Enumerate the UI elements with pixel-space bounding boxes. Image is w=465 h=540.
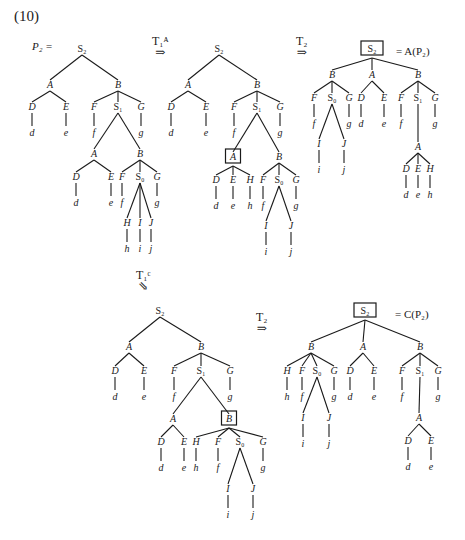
tree-node: E <box>380 92 387 103</box>
terminal-leaf: d <box>30 127 36 138</box>
terminal-leaf: f <box>262 200 266 211</box>
tree-node: J <box>251 483 256 494</box>
tree-edge <box>219 55 257 80</box>
tree-node: B <box>137 148 143 159</box>
tree-node: S₂ <box>367 43 376 54</box>
tree-edge <box>266 186 279 221</box>
tree-edge <box>160 317 201 342</box>
tree-node: D <box>156 436 165 447</box>
terminal-leaf: h <box>125 243 130 254</box>
tree-node: I <box>137 217 142 228</box>
tree-node: I <box>225 483 230 494</box>
tree-node: B <box>198 341 204 352</box>
terminal-leaf: f <box>401 391 405 402</box>
tree-edge <box>363 320 365 342</box>
tree-edge <box>311 320 365 342</box>
tree-node: E <box>62 101 69 112</box>
tree-edge <box>118 113 140 149</box>
terminal-leaf: i <box>265 246 268 257</box>
terminal-leaf: g <box>278 127 283 138</box>
tree-node: A <box>184 79 192 90</box>
terminal-leaf: i <box>318 164 321 175</box>
tree-node: H <box>282 365 291 376</box>
tree-node: J <box>289 220 294 231</box>
tree-edge <box>372 58 418 70</box>
tree-node: F <box>170 365 178 376</box>
tree-edge <box>50 55 82 80</box>
tree-edge <box>173 377 201 414</box>
tree-node: S₁ <box>413 92 422 103</box>
tree-node: S₂ <box>155 305 164 316</box>
tree-node: E <box>414 163 421 174</box>
tree-node: B <box>115 79 121 90</box>
terminal-leaf: j <box>326 438 331 449</box>
tree-edge <box>419 377 420 413</box>
tree-node: D <box>403 435 412 446</box>
tree-node: A <box>229 151 237 162</box>
terminal-leaf: g <box>228 391 233 402</box>
tree-node: G <box>259 436 266 447</box>
terminal-leaf: d <box>348 391 354 402</box>
terminal-leaf: d <box>404 189 410 200</box>
tree-node: A <box>125 341 133 352</box>
tree-p2: S₂ABDdEeFfS₁GgABDdEeFfS₀GgHhIiJj <box>27 43 160 254</box>
terminal-leaf: f <box>121 197 125 208</box>
tree-node: J <box>342 138 347 149</box>
tree-node: E <box>107 171 114 182</box>
tree-t1a: S₂ABDdEeFfS₁GgABDdEeHhFfS₀GgIiJj <box>166 43 299 257</box>
terminal-leaf: d <box>113 391 119 402</box>
terminal-leaf: d <box>74 197 80 208</box>
tree-node: B <box>254 79 260 90</box>
terminal-leaf: e <box>64 127 69 138</box>
terminal-leaf: j <box>288 246 293 257</box>
tree-node: D <box>211 174 220 185</box>
tree-node: B <box>329 69 335 80</box>
tree-edge <box>319 104 332 139</box>
terminal-leaf: i <box>139 243 142 254</box>
tree-node: F <box>230 101 238 112</box>
terminal-leaf: e <box>109 197 114 208</box>
terminal-leaf: d <box>406 461 412 472</box>
tree-t1c: S₂ABDdEeFfS₁GgABDdEeHhFfS₀GgIiJj <box>110 305 266 520</box>
tree-node: H <box>191 436 200 447</box>
tree-node: E <box>140 365 147 376</box>
tree-node: B <box>415 69 421 80</box>
tree-edge <box>303 377 317 413</box>
tree-c-p2: S₂BABHhFfS₀GgDdEeFfS₁GgIiJjADdEe <box>282 303 441 472</box>
tree-node: S₁ <box>113 101 122 112</box>
tree-edge <box>201 377 229 414</box>
tree-node: G <box>276 101 283 112</box>
terminal-leaf: j <box>250 509 255 520</box>
tree-node: B <box>226 413 232 424</box>
terminal-leaf: e <box>372 391 377 402</box>
tree-node: F <box>90 101 98 112</box>
tree-node: S₂ <box>214 43 223 54</box>
tree-edge <box>279 186 291 221</box>
terminal-leaf: e <box>182 462 187 473</box>
tree-node: S₂ <box>360 305 369 316</box>
tree-node: G <box>431 92 438 103</box>
tree-edge <box>233 113 257 152</box>
tree-edge <box>365 320 420 342</box>
tree-node: H <box>122 217 131 228</box>
tree-node: A <box>169 413 177 424</box>
tree-node: F <box>298 365 306 376</box>
tree-node: G <box>137 101 144 112</box>
terminal-leaf: d <box>214 200 220 211</box>
tree-node: G <box>153 171 160 182</box>
tree-edge <box>188 55 219 80</box>
tree-edge <box>94 113 118 149</box>
tree-node: E <box>370 365 377 376</box>
tree-edge <box>228 448 240 484</box>
terminal-leaf: e <box>142 391 147 402</box>
terminal-leaf: f <box>173 391 177 402</box>
tree-node: H <box>425 163 434 174</box>
tree-node: A <box>368 69 376 80</box>
tree-node: S₀ <box>235 436 245 447</box>
tree-node: F <box>214 436 222 447</box>
tree-node: D <box>110 365 119 376</box>
terminal-leaf: j <box>148 243 153 254</box>
terminal-leaf: d <box>169 127 175 138</box>
tree-node: E <box>229 174 236 185</box>
tree-edge <box>332 58 372 70</box>
